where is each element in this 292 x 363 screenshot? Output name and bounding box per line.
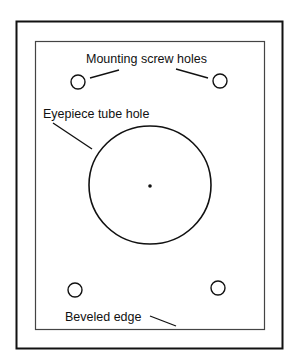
mounting-plate-diagram: Mounting screw holes Eyepiece tube hole …	[0, 0, 292, 363]
eyepiece-tube-hole-label: Eyepiece tube hole	[43, 107, 149, 121]
screw-hole-bottom-left	[68, 283, 82, 297]
screw-hole-top-right	[213, 74, 227, 88]
mounting-screw-right-leader	[176, 69, 208, 78]
screw-hole-top-left	[71, 75, 85, 89]
beveled-edge-leader	[150, 316, 176, 326]
mounting-screw-left-leader	[90, 70, 119, 78]
beveled-edge-label: Beveled edge	[65, 310, 142, 324]
mounting-screw-holes-label: Mounting screw holes	[86, 52, 207, 66]
screw-hole-bottom-right	[211, 281, 225, 295]
eyepiece-tube-hole-leader	[53, 123, 92, 149]
center-dot	[148, 184, 152, 188]
